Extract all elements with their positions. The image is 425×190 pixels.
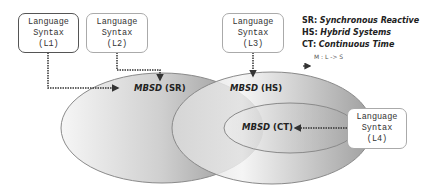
box-line-2: Syntax — [238, 28, 269, 39]
box-line-2: Syntax — [33, 28, 64, 39]
mbsd-prefix: MBSD — [230, 83, 258, 93]
box-line-1: Language — [97, 17, 138, 28]
mbsd-prefix: MBSD — [134, 83, 162, 93]
legend: SR: Synchronous Reactive HS: Hybrid Syst… — [302, 15, 419, 63]
legend-item-sr: SR: Synchronous Reactive — [302, 15, 419, 27]
box-line-3: (L1) — [38, 39, 58, 50]
language-syntax-box-l1: Language Syntax (L1) — [18, 13, 79, 53]
legend-mapping-text: M : L -> S — [314, 53, 343, 60]
mbsd-prefix: MBSD — [242, 122, 270, 132]
language-syntax-box-l3: Language Syntax (L3) — [222, 13, 284, 53]
legend-key: SR: — [302, 16, 317, 25]
box-line-2: Syntax — [362, 123, 393, 134]
box-line-2: Syntax — [102, 28, 133, 39]
mbsd-sr-label: MBSD (SR) — [134, 83, 186, 93]
diagram-canvas: Language Syntax (L1) Language Syntax (L2… — [0, 0, 425, 190]
mbsd-ct-label: MBSD (CT) — [242, 122, 293, 132]
legend-item-ct: CT: Continuous Time — [302, 39, 419, 51]
language-syntax-box-l2: Language Syntax (L2) — [86, 13, 148, 53]
box-line-3: (L3) — [243, 39, 263, 50]
box-line-1: Language — [357, 112, 398, 123]
box-line-3: (L4) — [367, 134, 387, 145]
legend-value: Continuous Time — [319, 40, 395, 49]
legend-key: HS: — [302, 28, 318, 37]
legend-key: CT: — [302, 40, 316, 49]
legend-value: Hybrid Systems — [320, 28, 391, 37]
mbsd-suffix: (CT) — [273, 122, 293, 132]
legend-item-hs: HS: Hybrid Systems — [302, 27, 419, 39]
legend-mapping: M : L -> S — [302, 51, 419, 63]
box-line-1: Language — [233, 17, 274, 28]
language-syntax-box-l4: Language Syntax (L4) — [347, 108, 407, 149]
mbsd-suffix: (HS) — [261, 83, 282, 93]
legend-value: Synchronous Reactive — [320, 16, 420, 25]
mbsd-hs-label: MBSD (HS) — [230, 83, 282, 93]
box-line-3: (L2) — [107, 39, 127, 50]
mbsd-suffix: (SR) — [165, 83, 185, 93]
box-line-1: Language — [28, 17, 69, 28]
